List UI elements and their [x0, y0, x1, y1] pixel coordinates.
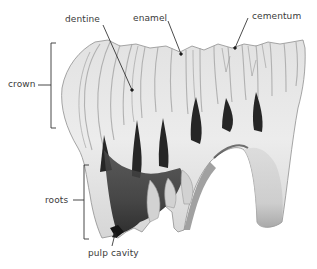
tooth-diagram: dentine enamel cementum crown roots pulp…: [0, 0, 317, 269]
label-crown: crown: [8, 79, 36, 89]
label-pulp-cavity: pulp cavity: [88, 248, 139, 258]
crown-bracket: [38, 43, 56, 128]
label-enamel: enamel: [133, 13, 167, 23]
cementum-leader: [235, 18, 248, 48]
tooth-illustration: [0, 0, 317, 269]
label-cementum: cementum: [252, 11, 301, 21]
label-roots: roots: [45, 195, 68, 205]
label-dentine: dentine: [65, 14, 100, 24]
